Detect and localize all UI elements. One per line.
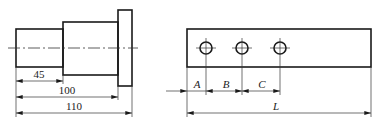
dim-label-c: C xyxy=(258,78,266,90)
shaft-middle-cylinder xyxy=(63,22,118,75)
dim-label-110: 110 xyxy=(66,100,83,112)
hole-1 xyxy=(196,38,216,58)
drawing-canvas: 45 100 110 xyxy=(0,0,378,125)
dim-label-l: L xyxy=(272,100,279,112)
hole-3 xyxy=(270,38,290,58)
dim-label-a: A xyxy=(193,78,201,90)
hole-2 xyxy=(232,38,252,58)
shaft-drawing: 45 100 110 xyxy=(8,10,138,117)
plate-drawing: A B C L xyxy=(166,29,371,117)
dim-label-100: 100 xyxy=(59,84,76,96)
dim-label-45: 45 xyxy=(34,68,46,80)
dim-label-b: B xyxy=(223,78,230,90)
